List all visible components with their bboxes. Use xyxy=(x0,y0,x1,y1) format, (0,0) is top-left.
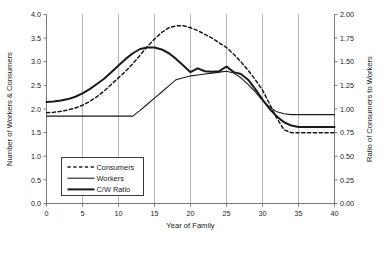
ytick-label-right-3: 0.75 xyxy=(340,128,354,137)
legend-label-workers: Workers xyxy=(97,174,125,183)
ytick-label-right-8: 2.00 xyxy=(340,10,354,19)
ytick-label-left-8: 4.0 xyxy=(31,10,41,19)
ytick-label-left-3: 1.5 xyxy=(31,128,41,137)
xtick-label-0: 0 xyxy=(45,209,49,218)
xtick-label-2: 10 xyxy=(115,209,123,218)
xtick-label-7: 35 xyxy=(295,209,303,218)
ytick-label-left-5: 2.5 xyxy=(31,81,41,90)
ytick-label-left-4: 2.0 xyxy=(31,105,41,114)
legend-label-c-w-ratio: C/W Ratio xyxy=(97,185,131,194)
xtick-label-3: 15 xyxy=(151,209,159,218)
ytick-label-left-1: 0.5 xyxy=(31,176,41,185)
ytick-label-left-7: 3.5 xyxy=(31,34,41,43)
ytick-label-left-2: 1.0 xyxy=(31,152,41,161)
ytick-label-right-0: 0.00 xyxy=(340,199,354,208)
xtick-label-4: 20 xyxy=(187,209,195,218)
ytick-label-right-7: 1.75 xyxy=(340,34,354,43)
ytick-label-right-4: 1.00 xyxy=(340,105,354,114)
ytick-label-right-6: 1.50 xyxy=(340,57,354,66)
legend-label-consumers: Consumers xyxy=(97,163,135,172)
xtick-label-5: 25 xyxy=(223,209,231,218)
xtick-label-6: 30 xyxy=(259,209,267,218)
line-chart: 0.00.51.01.52.02.53.03.54.00.000.250.500… xyxy=(0,0,384,260)
ytick-label-left-0: 0.0 xyxy=(31,199,41,208)
ytick-label-right-1: 0.25 xyxy=(340,176,354,185)
y-axis-title-right: Ratio of Consumers to Workers xyxy=(365,56,374,162)
x-axis-title: Year of Family xyxy=(166,221,214,230)
ytick-label-left-6: 3.0 xyxy=(31,57,41,66)
chart-figure: 0.00.51.01.52.02.53.03.54.00.000.250.500… xyxy=(0,0,384,260)
xtick-label-8: 40 xyxy=(331,209,339,218)
xtick-label-1: 5 xyxy=(81,209,85,218)
ytick-label-right-5: 1.25 xyxy=(340,81,354,90)
y-axis-title-left: Number of Workers & Consumers xyxy=(5,52,14,166)
chart-legend: ConsumersWorkersC/W Ratio xyxy=(62,158,144,196)
ytick-label-right-2: 0.50 xyxy=(340,152,354,161)
